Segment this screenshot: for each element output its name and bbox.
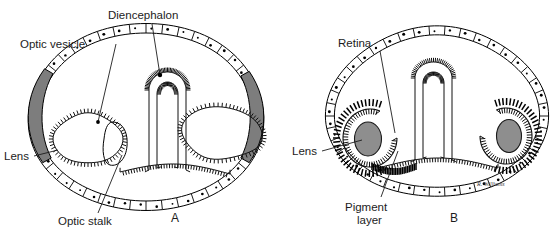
surface-ectoderm-panel-a: [28, 24, 264, 211]
label-pigment-layer-line2: layer: [357, 214, 382, 226]
label-retina: Retina: [338, 37, 372, 49]
embryology-figure: Optic vesicle Diencephalon Lens Optic st…: [0, 0, 556, 234]
artist-signature: R. Williams: [476, 181, 505, 187]
lens-vesicle-left: [355, 122, 382, 156]
lens-vesicle-right: [497, 120, 522, 153]
panel-letter-b: B: [450, 211, 458, 225]
label-diencephalon: Diencephalon: [108, 9, 178, 21]
panel-letter-a: A: [171, 211, 179, 225]
label-pigment-layer-line1: Pigment: [345, 201, 388, 213]
label-lens-panel-a: Lens: [4, 150, 29, 162]
figure-canvas: Optic vesicle Diencephalon Lens Optic st…: [0, 0, 556, 234]
label-optic-stalk: Optic stalk: [58, 215, 112, 227]
label-optic-vesicle: Optic vesicle: [20, 38, 85, 50]
label-lens-panel-b: Lens: [292, 145, 317, 157]
